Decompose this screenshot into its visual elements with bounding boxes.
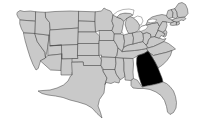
state-MT[interactable] [46, 11, 80, 30]
us-states-map[interactable] [0, 0, 212, 131]
state-SD[interactable] [79, 21, 96, 32]
state-NE[interactable] [78, 32, 99, 44]
state-WY[interactable] [50, 28, 79, 46]
state-AR[interactable] [101, 57, 116, 70]
state-KS[interactable] [78, 44, 99, 56]
state-AL[interactable] [124, 58, 134, 81]
state-ND[interactable] [79, 11, 96, 21]
state-MO[interactable] [99, 41, 118, 58]
state-IA[interactable] [100, 31, 115, 41]
state-WA[interactable] [17, 11, 36, 22]
state-MN[interactable] [95, 8, 114, 32]
us-map-container [0, 0, 212, 131]
